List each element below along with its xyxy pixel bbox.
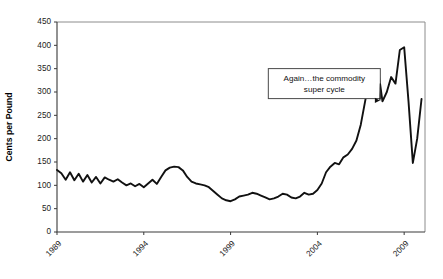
annotation-text-line-1: Again…the commodity [284,74,366,83]
x-tick-label: 1999 [218,239,238,259]
y-axis-ticks: 050100150200250300350400450 [37,17,57,236]
y-tick-label: 250 [37,111,51,120]
annotation-text-line-2: super cycle [304,85,345,94]
plot-background [57,22,425,232]
y-tick-label: 350 [37,64,51,73]
x-axis-ticks: 19891994199920042009 [44,232,411,258]
y-tick-label: 100 [37,181,51,190]
plot-frame [57,22,425,232]
y-axis-title: Cents per Pound [4,93,14,162]
y-tick-label: 400 [37,41,51,50]
y-tick-label: 50 [42,204,52,213]
x-tick-label: 1989 [44,239,64,259]
x-tick-label: 2004 [305,239,325,259]
commodity-price-line-chart: 050100150200250300350400450 198919941999… [0,0,443,279]
y-tick-label: 0 [46,227,51,236]
y-tick-label: 200 [37,134,51,143]
x-tick-label: 1994 [131,239,151,259]
x-tick-label: 2009 [391,239,411,259]
annotation-callout: Again…the commoditysuper cycle [268,69,380,103]
y-tick-label: 150 [37,157,51,166]
y-tick-label: 300 [37,87,51,96]
y-tick-label: 450 [37,17,51,26]
chart-container: 050100150200250300350400450 198919941999… [0,0,443,279]
